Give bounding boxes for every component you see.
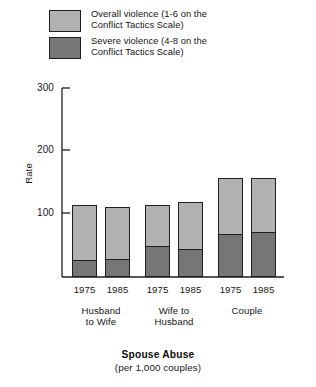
group-label-wife-to-husband: Wife to Husband bbox=[134, 305, 214, 327]
group-label-husband-to-wife: Husband to Wife bbox=[61, 305, 141, 327]
bar-wife-husband-1975 bbox=[145, 205, 170, 278]
chart-title: Spouse Abuse bbox=[0, 349, 316, 360]
ytick-300: 300 bbox=[24, 82, 54, 93]
xtick-year-6: 1985 bbox=[244, 284, 284, 295]
bar-couple-1985 bbox=[251, 178, 276, 277]
bar-wife-husband-1985 bbox=[178, 202, 203, 277]
chart-plot-area: 300 200 100 Rate 1975 1985 1975 1985 197… bbox=[0, 0, 316, 387]
bar-couple-1975 bbox=[218, 178, 243, 277]
group-label-couple: Couple bbox=[207, 305, 287, 316]
bar-severe-wife-husband-1985 bbox=[178, 249, 204, 277]
ytick-100: 100 bbox=[24, 207, 54, 218]
xtick-year-4: 1985 bbox=[171, 284, 211, 295]
bar-severe-couple-1985 bbox=[251, 232, 277, 277]
y-axis-label: Rate bbox=[23, 144, 34, 204]
bar-severe-husband-wife-1985 bbox=[105, 259, 131, 278]
bar-severe-wife-husband-1975 bbox=[145, 246, 171, 277]
bar-husband-wife-1975 bbox=[72, 205, 97, 278]
xtick-year-2: 1985 bbox=[98, 284, 138, 295]
bar-severe-couple-1975 bbox=[218, 234, 244, 278]
bar-husband-wife-1985 bbox=[105, 207, 130, 277]
bar-severe-husband-wife-1975 bbox=[72, 260, 98, 278]
chart-subtitle: (per 1,000 couples) bbox=[0, 362, 316, 373]
